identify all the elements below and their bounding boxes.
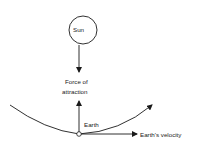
force-label-line2: attraction <box>62 88 87 95</box>
diagram-graphics <box>0 0 210 149</box>
orbit-path <box>10 105 152 134</box>
earth-label: Earth <box>84 121 99 128</box>
earth-circle <box>77 132 82 137</box>
velocity-label: Earth's velocity <box>140 131 181 138</box>
sun-label: Sun <box>73 26 84 33</box>
orbit-diagram: Sun Force of attraction Earth Earth's ve… <box>0 0 210 149</box>
force-label-line1: Force of <box>65 78 88 85</box>
